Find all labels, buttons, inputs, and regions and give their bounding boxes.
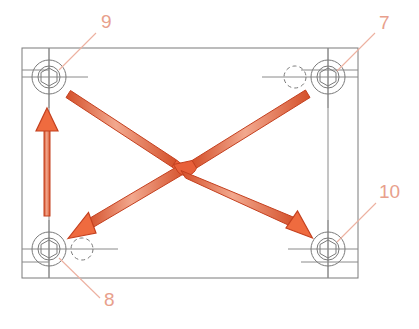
arrow-vertical-up [36, 108, 58, 216]
callout-label-10: 10 [379, 181, 400, 202]
leader-line-10 [337, 203, 376, 242]
diagram-canvas: 9 7 10 8 [0, 0, 419, 329]
arrow-diagonal-ne-to-se [174, 90, 313, 238]
leader-line-9 [59, 33, 96, 70]
arrow-diagonal-nw-to-sw [66, 91, 186, 239]
leader-line-7 [337, 33, 375, 71]
callout-label-8: 8 [104, 289, 115, 310]
bolt-top-right [262, 48, 358, 108]
callout-label-9: 9 [101, 11, 112, 32]
technical-diagram-root: 9 7 10 8 [0, 0, 419, 329]
callout-label-7: 7 [379, 12, 390, 33]
